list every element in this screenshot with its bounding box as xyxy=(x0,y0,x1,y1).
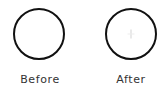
after-circle xyxy=(105,8,157,60)
crosshair-icon xyxy=(128,30,135,39)
after-label: After xyxy=(91,73,161,86)
before-label: Before xyxy=(0,73,80,86)
before-panel: Before xyxy=(0,0,80,91)
before-circle xyxy=(13,8,65,60)
after-panel: After xyxy=(91,0,161,91)
